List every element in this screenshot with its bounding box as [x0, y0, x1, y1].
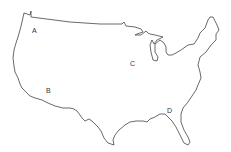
us-border-path	[13, 11, 219, 145]
map-label-d: D	[167, 107, 172, 114]
map-label-a: A	[32, 27, 37, 34]
us-map-outline	[0, 0, 231, 152]
map-label-b: B	[46, 87, 51, 94]
map-label-c: C	[130, 60, 135, 67]
